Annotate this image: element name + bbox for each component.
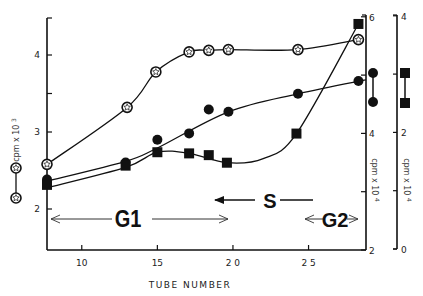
legend-filled-circle <box>368 68 378 107</box>
right1-tick-label: 6 <box>369 13 375 23</box>
square-marker <box>184 148 194 158</box>
series-line <box>47 40 358 165</box>
phase-s: S <box>214 190 313 212</box>
square-marker <box>400 98 410 108</box>
x-tick-label: 2 0 <box>226 258 241 268</box>
right2-tick-label: 0 <box>401 245 407 255</box>
s-label: S <box>263 190 276 212</box>
circle-marker <box>293 89 303 99</box>
legend-open-star <box>11 163 21 203</box>
circle-marker <box>368 97 378 107</box>
circle-marker <box>204 104 214 114</box>
arrow-head <box>214 196 224 204</box>
square-marker <box>42 180 52 190</box>
right1-tick-label: 4 <box>369 129 375 139</box>
square-marker <box>353 19 363 29</box>
circle-marker <box>152 135 162 145</box>
series-layer <box>42 19 366 190</box>
phase-g2: G2 <box>305 209 358 231</box>
left-axis-exponent: 3 <box>10 118 17 122</box>
right2-axis-exponent: 4 <box>406 198 413 202</box>
star-marker <box>204 45 214 55</box>
star-marker <box>293 45 303 55</box>
right1-axis-title: cpm x 10 4 <box>370 158 381 202</box>
square-marker <box>291 129 301 139</box>
right1-axis-exponent: 4 <box>374 198 381 202</box>
star-marker <box>184 47 194 57</box>
square-marker <box>222 158 232 168</box>
series-filled-square <box>42 19 363 190</box>
star-marker <box>11 193 21 203</box>
g1-label: G1 <box>115 205 142 232</box>
left-tick-label: 4 <box>34 50 40 60</box>
circle-marker <box>368 68 378 78</box>
right2-tick-label: 4 <box>401 12 407 22</box>
left-tick-label: 3 <box>34 127 40 137</box>
chart: 10152 02 5234cpm x 10 3246cpm x 10 4024c… <box>0 0 423 296</box>
right2-tick-label: 2 <box>401 128 407 138</box>
left-tick-label: 2 <box>34 204 40 214</box>
series-filled-circle <box>42 76 366 185</box>
star-marker <box>11 163 21 173</box>
circle-marker <box>184 128 194 138</box>
x-axis-title: TUBE NUMBER <box>148 280 232 290</box>
star-marker <box>122 102 132 112</box>
circle-marker <box>353 76 363 86</box>
x-tick-label: 15 <box>152 258 163 268</box>
star-marker <box>223 45 233 55</box>
square-marker <box>121 161 131 171</box>
g2-label: G2 <box>322 209 349 231</box>
star-marker <box>151 67 161 77</box>
right2-axis-title: cpm x 10 4 <box>402 158 413 202</box>
square-marker <box>204 150 214 160</box>
star-marker <box>353 35 363 45</box>
square-marker <box>400 68 410 78</box>
star-marker <box>42 159 52 169</box>
x-tick-label: 10 <box>76 258 88 268</box>
x-tick-label: 2 5 <box>301 258 315 268</box>
square-marker <box>152 147 162 157</box>
right1-tick-label: 2 <box>369 246 375 256</box>
annotation-layer: G1SG2 <box>51 190 358 232</box>
circle-marker <box>223 107 233 117</box>
phase-g1: G1 <box>51 205 228 232</box>
left-axis-title: cpm x 10 3 <box>10 118 21 162</box>
legend-filled-square <box>400 68 410 108</box>
series-line <box>47 80 366 181</box>
